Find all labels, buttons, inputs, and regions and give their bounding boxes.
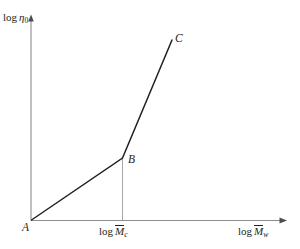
point-label-b: B bbox=[128, 154, 135, 166]
viscosity-curve bbox=[32, 40, 173, 220]
x-axis-label-variable: M bbox=[254, 225, 263, 237]
x-tick-label-variable: M bbox=[115, 225, 124, 237]
x-axis-tick-label-critical-mw: logMc bbox=[99, 225, 128, 239]
y-axis-arrow-icon bbox=[28, 15, 34, 22]
y-axis-label-prefix: log bbox=[3, 11, 17, 23]
x-tick-label-subscript: c bbox=[124, 230, 127, 239]
plot-canvas bbox=[0, 0, 300, 249]
y-axis-label-subscript: 0 bbox=[25, 16, 29, 25]
viscosity-molecular-weight-figure: logη0 logMc logMw A B C bbox=[0, 0, 300, 249]
x-axis-label-prefix: log bbox=[238, 225, 252, 237]
x-axis-label-subscript: w bbox=[263, 230, 268, 239]
point-label-a: A bbox=[22, 222, 29, 234]
x-axis-label: logMw bbox=[238, 225, 268, 239]
x-axis-arrow-icon bbox=[280, 218, 288, 224]
y-axis-label: logη0 bbox=[3, 12, 28, 25]
point-label-c: C bbox=[175, 33, 183, 45]
x-tick-label-prefix: log bbox=[99, 225, 113, 237]
